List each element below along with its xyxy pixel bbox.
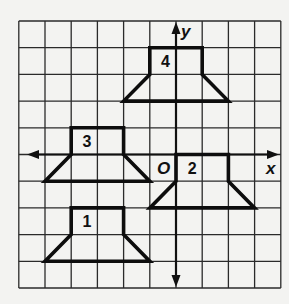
figure-4-label: 4 <box>161 53 170 70</box>
x-axis-arrow-right-icon <box>267 150 279 159</box>
y-axis-label: y <box>180 22 192 41</box>
y-axis-arrow-down-icon <box>172 275 181 287</box>
y-axis-arrow-up-icon <box>172 22 181 34</box>
figure-2-label: 2 <box>188 160 197 177</box>
x-axis-label: x <box>265 159 277 178</box>
axes: x y O <box>27 22 279 287</box>
figure-3-label: 3 <box>82 133 91 150</box>
x-axis-arrow-left-icon <box>27 150 39 159</box>
coordinate-grid-diagram: x y O 1234 <box>0 0 289 304</box>
figure-1-label: 1 <box>82 213 91 230</box>
origin-label: O <box>157 159 170 178</box>
